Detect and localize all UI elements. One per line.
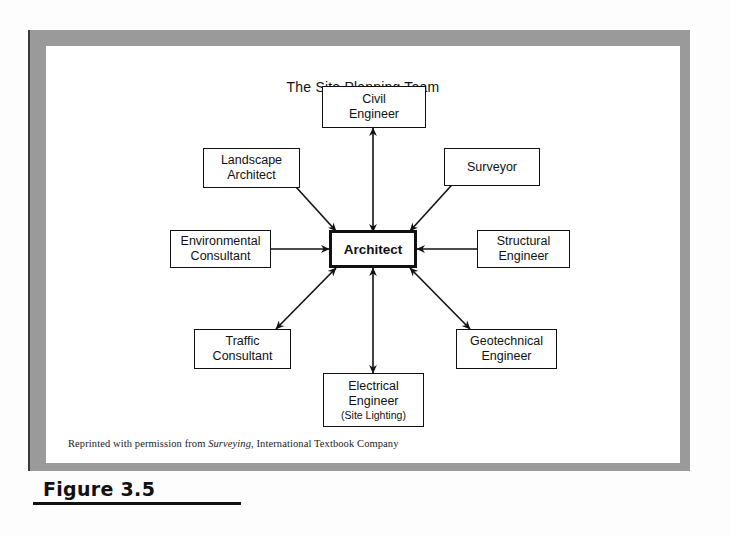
- credit-prefix: Reprinted with permission from: [68, 438, 208, 449]
- node-traffic-consultant-line1: Traffic: [225, 334, 259, 349]
- node-architect-label: Architect: [344, 242, 403, 257]
- node-landscape-architect-line2: Architect: [227, 168, 276, 183]
- node-civil-engineer[interactable]: Civil Engineer: [322, 86, 426, 128]
- node-electrical-engineer-line1: Electrical: [348, 379, 399, 394]
- node-electrical-engineer[interactable]: Electrical Engineer (Site Lighting): [323, 373, 424, 427]
- connector-architect-traffic-consultant: [276, 268, 336, 329]
- node-environmental-consultant[interactable]: Environmental Consultant: [170, 230, 271, 268]
- node-geotechnical-engineer[interactable]: Geotechnical Engineer: [456, 329, 557, 369]
- node-civil-engineer-line2: Engineer: [349, 107, 399, 122]
- connector-architect-geotechnical-engineer: [410, 268, 470, 329]
- node-structural-engineer[interactable]: Structural Engineer: [477, 230, 570, 268]
- node-structural-engineer-line2: Engineer: [498, 249, 548, 264]
- figure-inner-panel: The Site Planning Team Civil Engineer La…: [46, 46, 680, 463]
- figure-label-rule: [33, 502, 241, 505]
- node-geotechnical-engineer-line1: Geotechnical: [470, 334, 543, 349]
- credit-suffix: , International Textbook Company: [251, 438, 399, 449]
- node-traffic-consultant-line2: Consultant: [213, 349, 273, 364]
- node-structural-engineer-line1: Structural: [497, 234, 551, 249]
- node-environmental-consultant-line1: Environmental: [181, 234, 261, 249]
- node-electrical-engineer-line3: (Site Lighting): [341, 409, 406, 422]
- node-surveyor[interactable]: Surveyor: [444, 148, 540, 186]
- node-civil-engineer-line1: Civil: [362, 92, 386, 107]
- node-landscape-architect[interactable]: Landscape Architect: [203, 148, 300, 188]
- node-architect[interactable]: Architect: [329, 230, 417, 268]
- figure-label: Figure 3.5: [33, 478, 251, 505]
- node-landscape-architect-line1: Landscape: [221, 153, 282, 168]
- node-traffic-consultant[interactable]: Traffic Consultant: [194, 329, 291, 369]
- figure-frame: The Site Planning Team Civil Engineer La…: [28, 30, 690, 471]
- figure-credit: Reprinted with permission from Surveying…: [68, 438, 399, 449]
- page-canvas: The Site Planning Team Civil Engineer La…: [0, 0, 731, 537]
- credit-source-title: Surveying: [208, 438, 251, 449]
- node-geotechnical-engineer-line2: Engineer: [481, 349, 531, 364]
- node-electrical-engineer-line2: Engineer: [348, 394, 398, 409]
- site-planning-team-diagram: The Site Planning Team Civil Engineer La…: [46, 46, 680, 463]
- figure-label-text: Figure 3.5: [33, 478, 251, 500]
- node-surveyor-line1: Surveyor: [467, 160, 517, 175]
- node-environmental-consultant-line2: Consultant: [191, 249, 251, 264]
